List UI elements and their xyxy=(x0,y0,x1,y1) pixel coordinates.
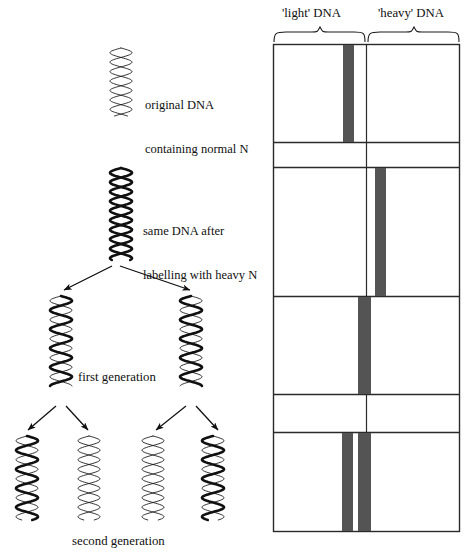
helix-gen2-2-strand-light-0 xyxy=(78,436,100,520)
diagram-canvas xyxy=(0,0,472,559)
meselson-stahl-figure: original DNA containing normal N same DN… xyxy=(0,0,472,559)
band-light xyxy=(342,433,353,531)
arrow-to-gen2-2 xyxy=(66,406,88,430)
band-heavy xyxy=(375,168,386,296)
tube-first-generation xyxy=(358,297,371,394)
band-light xyxy=(343,45,354,142)
helix-gen2-1 xyxy=(16,436,38,520)
helix-gen2-1-strand-heavy-0 xyxy=(16,436,38,520)
tube-second-generation xyxy=(342,433,371,531)
helix-gen2-3-strand-light-1 xyxy=(142,436,164,520)
helix-original xyxy=(110,48,132,116)
band-hybrid xyxy=(358,297,371,394)
helix-gen2-4-strand-heavy-1 xyxy=(202,436,224,520)
brace-light-dna xyxy=(274,27,365,42)
helix-layer xyxy=(16,48,224,520)
helix-gen2-4 xyxy=(202,436,224,520)
tube-original xyxy=(343,45,354,142)
helix-gen2-3-strand-light-0 xyxy=(142,436,164,520)
helix-original-strand-light-0 xyxy=(110,48,132,116)
arrow-to-gen1-right xyxy=(120,266,190,290)
band-hybrid xyxy=(358,433,371,531)
arrow-to-gen2-4 xyxy=(196,406,218,430)
helix-gen2-2-strand-light-1 xyxy=(78,436,100,520)
brace-heavy-dna xyxy=(368,27,459,42)
arrow-to-gen2-1 xyxy=(28,406,56,430)
helix-labelled xyxy=(110,168,132,260)
helix-original-strand-light-1 xyxy=(110,48,132,116)
helix-gen2-2 xyxy=(78,436,100,520)
arrow-to-gen2-3 xyxy=(156,406,186,430)
helix-gen1-left xyxy=(50,296,72,386)
helix-gen1-right xyxy=(180,296,202,386)
helix-gen2-3 xyxy=(142,436,164,520)
arrow-group xyxy=(28,266,218,430)
tube-heavy xyxy=(375,168,386,296)
arrow-to-gen1-left xyxy=(64,266,112,290)
